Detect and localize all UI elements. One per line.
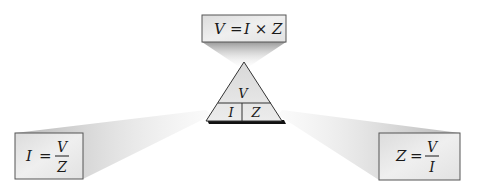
formula-box-voltage: V = I × Z — [202, 15, 286, 42]
impedance-eq: = — [410, 147, 423, 165]
impedance-denominator: I — [428, 159, 435, 175]
formula-box-current: I = V Z — [15, 133, 83, 179]
triangle-z-label: Z — [250, 105, 261, 120]
current-eq: = — [39, 147, 52, 165]
current-denominator: Z — [56, 159, 67, 175]
formula-triangle: V I Z — [206, 62, 286, 124]
impedance-lhs: Z — [395, 147, 407, 165]
triangle-i-label: I — [227, 105, 234, 120]
voltage-eq: = — [230, 20, 243, 38]
triangle-v-label: V — [238, 86, 249, 101]
ohms-law-diagram: V I Z V = I × Z I = V Z Z = V I — [0, 0, 480, 192]
formula-box-impedance: Z = V I — [379, 133, 460, 180]
current-lhs: I — [25, 147, 33, 165]
voltage-rhs: I × Z — [243, 20, 283, 38]
